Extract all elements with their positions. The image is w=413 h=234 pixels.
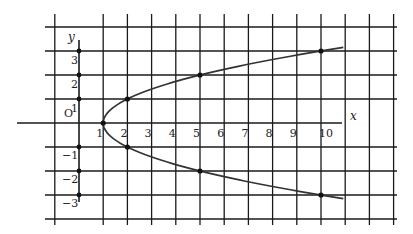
data-point [197,168,202,173]
axis-tick-point [77,97,82,102]
axis-tick-point [77,49,82,54]
y-tick-label: −1 [62,149,78,162]
x-tick-label: 3 [145,127,152,140]
y-tick-label: 3 [71,54,78,67]
x-tick-label: 8 [266,127,273,140]
x-tick-label: 9 [290,127,297,140]
x-tick-label: 2 [120,127,127,140]
data-point [125,96,130,101]
data-point [318,192,323,197]
x-tick-label: 6 [217,127,224,140]
x-tick-label: 1 [96,127,103,140]
data-point [318,48,323,53]
x-tick-label: 4 [169,127,176,140]
y-axis-label: y [67,30,75,44]
y-tick-label: −2 [62,173,78,186]
x-tick-label: 7 [241,127,248,140]
data-point [125,144,130,149]
parabola-chart: 12345678910321−1−2−3Oxy [0,0,413,234]
y-tick-label: 2 [71,78,78,91]
axis-tick-point [77,73,82,78]
chart-container: 12345678910321−1−2−3Oxy [0,0,413,234]
x-tick-label: 5 [193,127,200,140]
data-point [101,120,106,125]
data-point [197,72,202,77]
x-tick-label: 10 [319,127,333,140]
origin-label: O [64,107,73,120]
x-axis-label: x [350,109,357,123]
y-tick-label: −3 [62,197,78,210]
